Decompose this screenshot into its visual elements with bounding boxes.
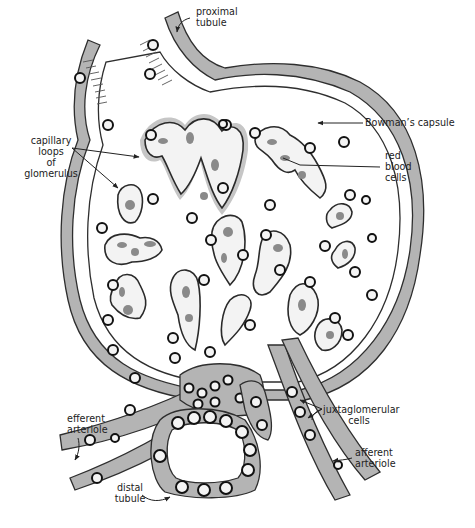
label-proximal-tubule: proximal tubule — [196, 6, 238, 28]
label-distal-tubule: distal tubule — [110, 482, 150, 504]
label-capillary-loops: capillary loops of glomerulus — [20, 135, 82, 179]
label-juxtaglomerular-cells: juxtaglomerular cells — [323, 404, 395, 426]
bowmans-capsule — [61, 12, 424, 400]
label-bowmans-capsule: Bowman’s capsule — [365, 117, 455, 128]
renal-corpuscle-illustration — [0, 0, 475, 528]
distal-tubule — [151, 409, 260, 498]
label-afferent-arteriole: afferent arteriole — [355, 447, 396, 469]
label-efferent-arteriole: efferent arteriole — [67, 413, 108, 435]
label-red-blood-cells: red blood cells — [385, 150, 412, 183]
